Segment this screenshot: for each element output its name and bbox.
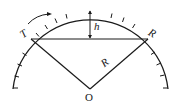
radius-OR [90,39,148,89]
arrowhead-down-icon [88,35,92,39]
label-O: O [85,91,93,103]
curved-arrowhead-icon [47,12,52,16]
arrowhead-up-icon [88,11,92,15]
height-dimension [88,11,92,39]
label-R-point: R [146,25,159,39]
label-R-radius: R [97,55,111,69]
label-h: h [94,20,100,32]
label-T: T [17,26,30,40]
rotation-arrow [28,12,52,24]
circle-segment-diagram: T R R h O [0,0,178,108]
radius-OT [31,39,90,89]
